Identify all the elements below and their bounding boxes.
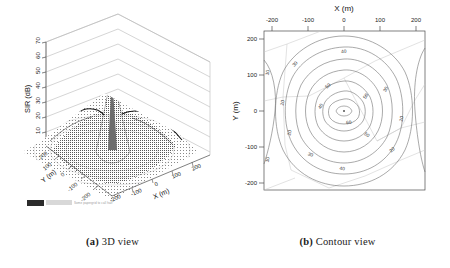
svg-text:100: 100 (247, 72, 258, 78)
z-axis-label-3d: SIR (dB) (23, 85, 32, 113)
subplot-3d-view: 0 10 20 30 40 50 60 70 SIR (dB) (0, 0, 225, 228)
svg-text:20: 20 (34, 112, 41, 119)
z-axis-3d (42, 42, 46, 147)
x-axis-label-3d: X (m) (152, 187, 171, 201)
svg-text:-200: -200 (266, 17, 279, 23)
surface-mesh-3d (22, 72, 198, 200)
svg-text:70: 70 (34, 37, 41, 44)
x-axis-contour (272, 26, 416, 31)
plot-contour-canvas: -200 -100 0 100 200 X (m) 200 100 0 -100… (225, 0, 450, 228)
caption-subplot-a: (a) 3D view (0, 236, 225, 254)
svg-text:0: 0 (342, 17, 346, 23)
svg-text:0: 0 (254, 108, 258, 114)
svg-text:50: 50 (34, 67, 41, 74)
caption-tag-b: (b) (299, 236, 312, 247)
svg-text:0: 0 (154, 181, 159, 188)
y-tick-labels-contour: 200 100 0 -100 -200 (245, 36, 258, 186)
x-axis-label-contour: X (m) (334, 4, 354, 13)
watermark-bar (46, 200, 72, 205)
caption-tag-a: (a) (86, 236, 99, 247)
watermark-chip (27, 200, 44, 206)
x-tick-labels-contour: -200 -100 0 100 200 (266, 17, 422, 23)
y-axis-label-contour: Y (m) (231, 101, 240, 121)
y-axis-label-3d: Y (m) (40, 168, 58, 185)
contour-peak-point (343, 110, 345, 112)
svg-text:60: 60 (34, 52, 41, 59)
figure: 0 10 20 30 40 50 60 70 SIR (dB) (0, 0, 450, 268)
svg-text:60: 60 (346, 120, 352, 126)
svg-text:40: 40 (34, 82, 41, 89)
svg-text:100: 100 (375, 17, 386, 23)
svg-text:-200: -200 (245, 180, 258, 186)
subplot-contour-view: -200 -100 0 100 200 X (m) 200 100 0 -100… (225, 0, 450, 228)
plot-3d-canvas: 0 10 20 30 40 50 60 70 SIR (dB) (0, 0, 225, 228)
caption-text-b: Contour view (316, 236, 376, 247)
svg-text:-100: -100 (302, 17, 315, 23)
svg-text:10: 10 (34, 127, 41, 134)
svg-text:40: 40 (339, 166, 345, 172)
svg-text:-100: -100 (245, 144, 258, 150)
watermark-text: Some papergrid to call half services any (74, 201, 113, 205)
svg-text:200: 200 (411, 17, 422, 23)
y-axis-contour (259, 39, 264, 183)
svg-text:40: 40 (341, 49, 347, 55)
caption-subplot-b: (b) Contour view (225, 236, 450, 254)
svg-text:-100: -100 (66, 181, 79, 193)
caption-text-a: 3D view (102, 236, 139, 247)
z-tick-labels-3d: 0 10 20 30 40 50 60 70 (34, 37, 41, 148)
svg-text:200: 200 (247, 36, 258, 42)
svg-text:30: 30 (34, 97, 41, 104)
watermark-strip-3d: Some papergrid to call half services any (27, 199, 113, 206)
